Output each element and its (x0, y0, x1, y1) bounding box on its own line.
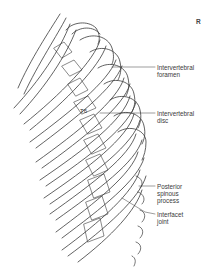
label-posterior-spinous-process: Posterior spinous process (157, 183, 182, 205)
vertebra-label-t6: T6 (80, 108, 87, 114)
label-intervertebral-foramen: Intervertebral foramen (157, 64, 194, 78)
spine-rib-illustration (0, 0, 208, 270)
label-intervertebral-disc: Intervertebral disc (157, 110, 194, 124)
label-interfacet-joint: Interfacet joint (157, 211, 183, 225)
spinous-processes (132, 176, 145, 266)
orientation-marker: R (196, 18, 201, 25)
ribs (14, 14, 146, 262)
